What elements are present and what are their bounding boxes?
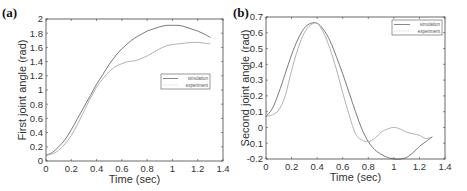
y-tick-label: 0.2: [30, 141, 43, 152]
legend-experiment-label: experiment: [418, 29, 441, 34]
legend-simulation-label: simulation: [188, 76, 209, 81]
y-tick-label: 0.8: [30, 99, 43, 110]
simulation-curve: [266, 23, 432, 160]
legend-simulation-label: simulation: [420, 22, 441, 27]
panel-b-chart: (b) 00.20.40.60.811.21.4-0.2-0.100.10.20…: [233, 5, 452, 183]
y-tick-label: 0.2: [250, 90, 263, 101]
x-tick-label: 1.4: [216, 163, 229, 174]
y-tick-label: 0.3: [250, 74, 263, 85]
x-tick-label: 1.2: [191, 163, 204, 174]
y-tick-label: 0.7: [250, 11, 263, 22]
panel-a-chart: (a) 00.20.40.60.811.21.400.20.40.60.811.…: [2, 5, 230, 185]
y-tick-label: 0.1: [250, 106, 263, 117]
x-tick-label: 0.4: [90, 163, 103, 174]
x-tick-label: 0.4: [311, 161, 324, 172]
legend-experiment-label: experiment: [186, 83, 209, 88]
y-tick-label: 0.4: [30, 127, 43, 138]
x-tick-label: 1.4: [438, 161, 451, 172]
y-tick-label: 1.8: [30, 28, 43, 39]
x-tick-label: 1: [391, 161, 396, 172]
y-tick-label: -0.2: [247, 153, 263, 164]
panel-b-axes-frame: [266, 17, 445, 159]
panel-a-legend: simulation experiment: [161, 74, 210, 89]
experiment-curve: [266, 23, 432, 142]
y-tick-label: 0: [258, 122, 263, 133]
y-tick-label: 0.6: [250, 27, 263, 38]
panel-b-ylabel: Second joint angle (rad): [239, 30, 251, 147]
figure: (a) 00.20.40.60.811.21.400.20.40.60.811.…: [0, 0, 467, 191]
panel-a-curves: [46, 25, 210, 155]
panel-a-label: (a): [2, 5, 17, 20]
y-tick-label: 0.5: [250, 43, 263, 54]
panel-b-label: (b): [233, 5, 249, 20]
panel-b-xlabel: Time (sec): [330, 171, 382, 183]
y-tick-label: 1.4: [30, 56, 43, 67]
y-tick-label: 1.6: [30, 42, 43, 53]
experiment-curve: [46, 42, 210, 155]
x-tick-label: 0: [263, 161, 268, 172]
y-tick-label: 0.4: [250, 59, 263, 70]
x-tick-label: 0.2: [65, 163, 78, 174]
panel-a-xlabel: Time (sec): [109, 173, 161, 185]
y-tick-label: 0.6: [30, 113, 43, 124]
x-tick-label: 1: [170, 163, 175, 174]
panel-a-axes-frame: [46, 19, 223, 161]
x-tick-label: 0.2: [285, 161, 298, 172]
y-tick-label: 0: [38, 155, 43, 166]
y-tick-label: 1.2: [30, 70, 43, 81]
panel-b-legend: simulation experiment: [392, 20, 442, 35]
panel-a-ylabel: First joint angle (rad): [16, 40, 28, 141]
x-tick-label: 0: [43, 163, 48, 174]
y-tick-label: 2: [38, 13, 43, 24]
x-tick-label: 1.2: [413, 161, 426, 172]
panel-b-curves: [266, 23, 432, 160]
y-tick-label: 1: [38, 84, 43, 95]
